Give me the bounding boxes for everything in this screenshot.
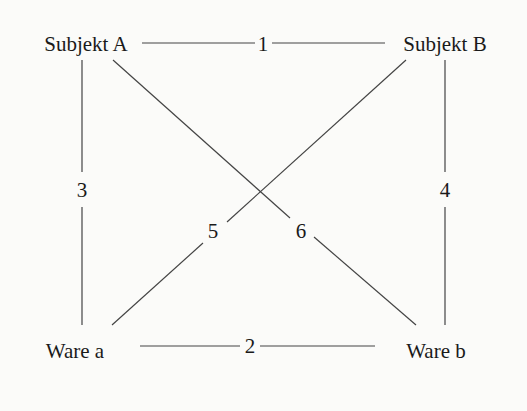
edge-label-6: 6 <box>296 221 307 242</box>
edge-label-5: 5 <box>208 221 219 242</box>
edge-6-top <box>113 60 290 218</box>
edge-label-3: 3 <box>77 180 88 201</box>
edge-6-bottom <box>314 237 416 325</box>
node-ware-b: Ware b <box>406 341 466 362</box>
node-subjekt-b: Subjekt B <box>403 34 486 55</box>
edge-5-bottom <box>112 243 203 325</box>
node-subjekt-a: Subjekt A <box>44 34 127 55</box>
diagram-canvas: Subjekt A Subjekt B Ware a Ware b 1 2 3 … <box>0 0 527 411</box>
edge-label-2: 2 <box>245 336 256 357</box>
edge-5-top <box>227 60 406 222</box>
edge-label-1: 1 <box>258 34 269 55</box>
node-ware-a: Ware a <box>46 341 104 362</box>
edge-label-4: 4 <box>440 180 451 201</box>
